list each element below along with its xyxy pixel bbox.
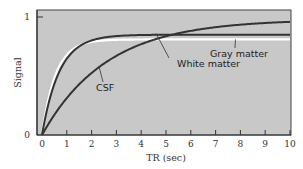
- x-tick-label: 7: [213, 139, 219, 149]
- y-axis-label: Signal: [12, 57, 23, 87]
- x-tick-label: 10: [284, 139, 296, 149]
- x-tick-label: 8: [238, 139, 244, 149]
- x-tick-label: 1: [64, 139, 70, 149]
- x-axis-label: TR (sec): [146, 152, 186, 163]
- x-tick-label: 3: [114, 139, 120, 149]
- y-tick-label: 1: [24, 12, 30, 22]
- plot-area: [37, 10, 291, 135]
- annotation-csf: CSF: [96, 82, 114, 93]
- x-tick-label: 4: [138, 139, 144, 149]
- x-tick-label: 6: [188, 139, 194, 149]
- x-tick-label: 5: [163, 139, 169, 149]
- x-tick-label: 9: [262, 139, 268, 149]
- x-tick-label: 2: [89, 139, 95, 149]
- annotation-white-matter: White matter: [177, 58, 240, 69]
- chart: 01234567891001 White matterGray matterCS…: [0, 0, 303, 169]
- y-tick-label: 0: [24, 130, 30, 140]
- x-tick-label: 0: [39, 139, 45, 149]
- annotation-gray-matter: Gray matter: [210, 48, 268, 59]
